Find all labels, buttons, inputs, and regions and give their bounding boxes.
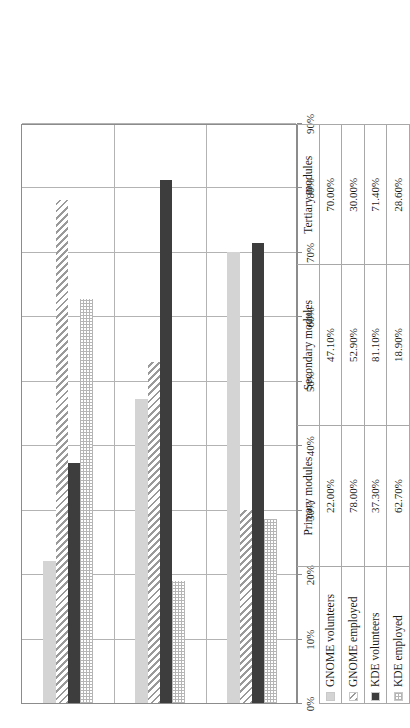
bar-kde-employed-secondary-modules [172, 581, 184, 703]
table-cell-value: 78.00% [342, 425, 365, 567]
bar-kde-employed-tertiary-modules [264, 519, 276, 703]
table-row: KDE volunteers37.30%81.10%71.40% [364, 125, 387, 704]
table-cell-value: 62.70% [387, 425, 410, 567]
table-row-header: GNOME volunteers [319, 567, 342, 704]
gridline [22, 123, 296, 124]
bar-kde-employed-primary-modules [80, 299, 92, 703]
bar-gnome-volunteers-tertiary-modules [227, 252, 239, 703]
table-row: KDE employed62.70%18.90%28.60% [387, 125, 410, 704]
table-corner-cell [297, 567, 319, 704]
group-separator [114, 125, 115, 703]
table-cell-value: 30.00% [342, 125, 365, 265]
bar-gnome-employed-primary-modules [56, 200, 68, 703]
plot-area [21, 124, 297, 704]
legend-label: KDE volunteers [369, 613, 381, 687]
bar-gnome-employed-tertiary-modules [240, 510, 252, 703]
table-category-header: Primary modules [297, 425, 319, 567]
group-separator [206, 125, 207, 703]
legend-label: GNOME volunteers [324, 594, 336, 687]
legend-label: GNOME employed [347, 597, 359, 687]
table-category-header: Secondary modules [297, 265, 319, 425]
table-cell-value: 47.10% [319, 265, 342, 425]
table-row-header: KDE volunteers [364, 567, 387, 704]
table-cell-value: 71.40% [364, 125, 387, 265]
table-cell-value: 81.10% [364, 265, 387, 425]
table-cell-value: 70.00% [319, 125, 342, 265]
legend-label: KDE employed [392, 615, 404, 687]
table-row-header: KDE employed [387, 567, 410, 704]
bar-gnome-volunteers-secondary-modules [135, 399, 147, 703]
legend-swatch-icon [394, 692, 403, 701]
data-table: Primary modulesSecondary modulesTertiary… [297, 124, 410, 704]
legend-swatch-icon [349, 692, 358, 701]
bar-kde-volunteers-primary-modules [68, 463, 80, 703]
table-row: GNOME employed78.00%52.90%30.00% [342, 125, 365, 704]
table-cell-value: 52.90% [342, 265, 365, 425]
table-cell-value: 22.00% [319, 425, 342, 567]
table-cell-value: 28.60% [387, 125, 410, 265]
bar-gnome-employed-secondary-modules [148, 362, 160, 703]
bar-gnome-volunteers-primary-modules [43, 561, 55, 703]
bar-kde-volunteers-secondary-modules [160, 180, 172, 703]
table-category-header: Tertiary modules [297, 125, 319, 265]
table-row: GNOME volunteers22.00%47.10%70.00% [319, 125, 342, 704]
table-row-header: GNOME employed [342, 567, 365, 704]
table-cell-value: 37.30% [364, 425, 387, 567]
gridline [22, 187, 296, 188]
table-cell-value: 18.90% [387, 265, 410, 425]
bar-kde-volunteers-tertiary-modules [252, 243, 264, 703]
legend-swatch-icon [326, 692, 335, 701]
table-category-header-row: Primary modulesSecondary modulesTertiary… [297, 125, 319, 704]
legend-swatch-icon [371, 692, 380, 701]
